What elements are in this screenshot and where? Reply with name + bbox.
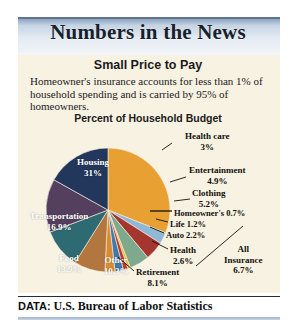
slice-label-housing-name: Housing [77,157,109,167]
footer-source-label: DATA: [18,300,51,312]
slice-label-retirement-name: Retirement [136,267,179,277]
slice-label-health-care: Health care 3% [185,131,230,152]
slice-label-life-value: 1.2% [187,219,206,229]
footer-source-value: U.S. Bureau of Labor Statistics [53,299,212,313]
group-label-all-insurance-line1: All [238,244,250,254]
slice-label-housing: Housing 31% [58,157,128,178]
slice-label-auto: Auto 2.2% [166,230,205,241]
slice-label-food: Food 13.9% [46,253,92,274]
slice-label-health-care-name: Health care [185,131,230,141]
slice-label-transportation-name: Transportation [30,211,88,221]
footer-top-rule [18,296,280,297]
slice-label-housing-value: 31% [84,168,102,178]
article-blurb: Homeowner's insurance accounts for less … [30,75,270,113]
group-label-all-insurance: All Insurance 6.7% [224,244,263,276]
slice-label-health-care-value: 3% [201,142,215,152]
slice-label-homeowners-value: 0.7% [226,208,245,218]
slice-label-clothing: Clothing 5.2% [192,188,226,209]
slice-label-clothing-name: Clothing [192,188,226,198]
slice-label-entertainment-value: 4.9% [207,176,227,186]
news-graphic-card: Numbers in the News Small Price to Pay H… [0,0,296,328]
slice-label-retirement: Retirement 8.1% [136,267,179,288]
article-subtitle: Small Price to Pay [0,58,296,72]
slice-label-homeowners-name: Homeowner's [174,208,224,218]
slice-label-auto-name: Auto [166,230,184,240]
group-label-all-insurance-value: 6.7% [233,265,253,275]
page-title: Numbers in the News [0,20,296,45]
slice-label-health-value: 2.6% [173,256,193,266]
slice-label-life: Life 1.2% [170,219,206,230]
slice-label-life-name: Life [170,219,185,229]
slice-label-retirement-value: 8.1% [148,278,168,288]
slice-label-entertainment-name: Entertainment [189,165,246,175]
slice-label-other-name: Other [105,255,128,265]
slice-label-clothing-value: 5.2% [199,199,219,209]
slice-label-homeowners: Homeowner's 0.7% [174,208,245,219]
footer-source: DATA: U.S. Bureau of Labor Statistics [18,299,280,315]
slice-label-food-name: Food [59,253,79,263]
slice-label-health: Health 2.6% [170,245,196,266]
slice-label-food-value: 13.9% [57,264,82,274]
group-label-all-insurance-line2: Insurance [224,255,263,265]
slice-label-auto-value: 2.2% [186,230,205,240]
footer-bottom-rule [18,317,280,320]
slice-label-entertainment: Entertainment 4.9% [189,165,246,186]
header-top-rule [18,17,280,19]
slice-label-transportation: Transportation 16.9% [14,211,104,232]
slice-label-health-name: Health [170,245,196,255]
slice-label-other-value: 10.3% [104,266,129,276]
slice-label-transportation-value: 16.9% [47,222,72,232]
slice-label-other: Other 10.3% [93,255,139,276]
